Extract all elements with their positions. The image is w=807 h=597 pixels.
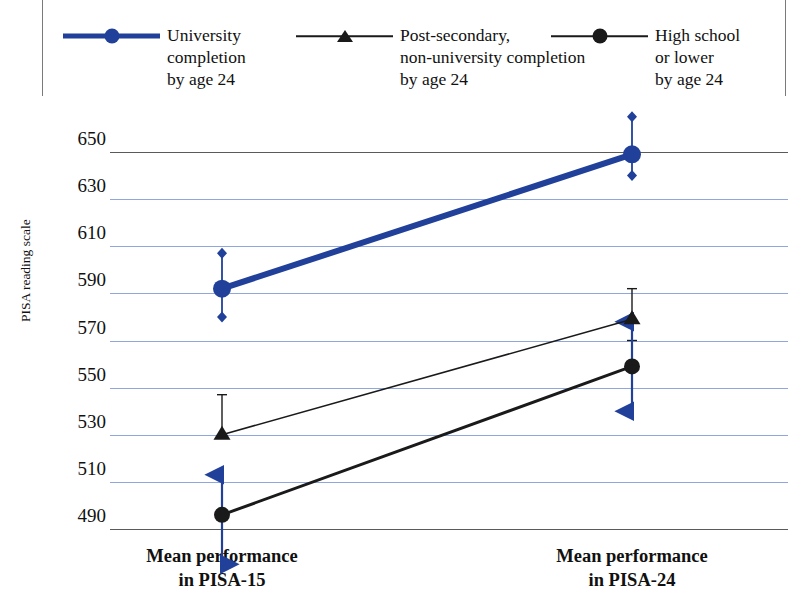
triangle-icon <box>337 30 353 42</box>
error-bar-cap <box>627 170 637 181</box>
y-axis-tick-label: 550 <box>46 364 106 388</box>
series-line <box>222 154 632 288</box>
y-axis-title: PISA reading scale <box>18 219 34 322</box>
legend-swatch-university <box>63 26 160 46</box>
legend-item-university: University completion by age 24 <box>63 24 246 90</box>
circle-icon <box>624 358 640 374</box>
legend-label-university: University completion by age 24 <box>167 24 246 90</box>
circle-icon <box>592 29 607 44</box>
series-line <box>222 366 632 514</box>
y-axis-tick-label: 490 <box>46 505 106 529</box>
y-axis-tick-label: 570 <box>46 317 106 341</box>
circle-icon <box>213 280 231 298</box>
y-axis-tick-label: 650 <box>46 128 106 152</box>
plot-area: PISA reading scale 650630610590570550530… <box>110 152 788 529</box>
legend-item-post-secondary: Post-secondary, non-university completio… <box>296 24 585 90</box>
triangle-icon <box>624 310 641 324</box>
error-bar-cap <box>217 248 227 259</box>
series-layer <box>110 122 788 562</box>
legend-item-high-school: High school or lower by age 24 <box>551 24 740 90</box>
error-bar-cap <box>627 111 637 122</box>
y-axis-tick-label: 510 <box>46 458 106 482</box>
legend-swatch-post-secondary <box>296 26 393 46</box>
chart-legend: University completion by age 24 Post-sec… <box>42 0 786 96</box>
circle-icon <box>214 507 230 523</box>
y-axis-tick-label: 530 <box>46 411 106 435</box>
chart-figure: University completion by age 24 Post-sec… <box>0 0 807 597</box>
legend-label-high-school: High school or lower by age 24 <box>655 24 740 90</box>
series-line <box>222 319 632 434</box>
error-bar-cap <box>217 311 227 322</box>
circle-icon <box>623 145 641 163</box>
circle-icon <box>104 29 119 44</box>
y-axis-tick-label: 590 <box>46 269 106 293</box>
y-axis-tick-label: 610 <box>46 222 106 246</box>
legend-swatch-high-school <box>551 26 648 46</box>
y-axis-tick-label: 630 <box>46 175 106 199</box>
